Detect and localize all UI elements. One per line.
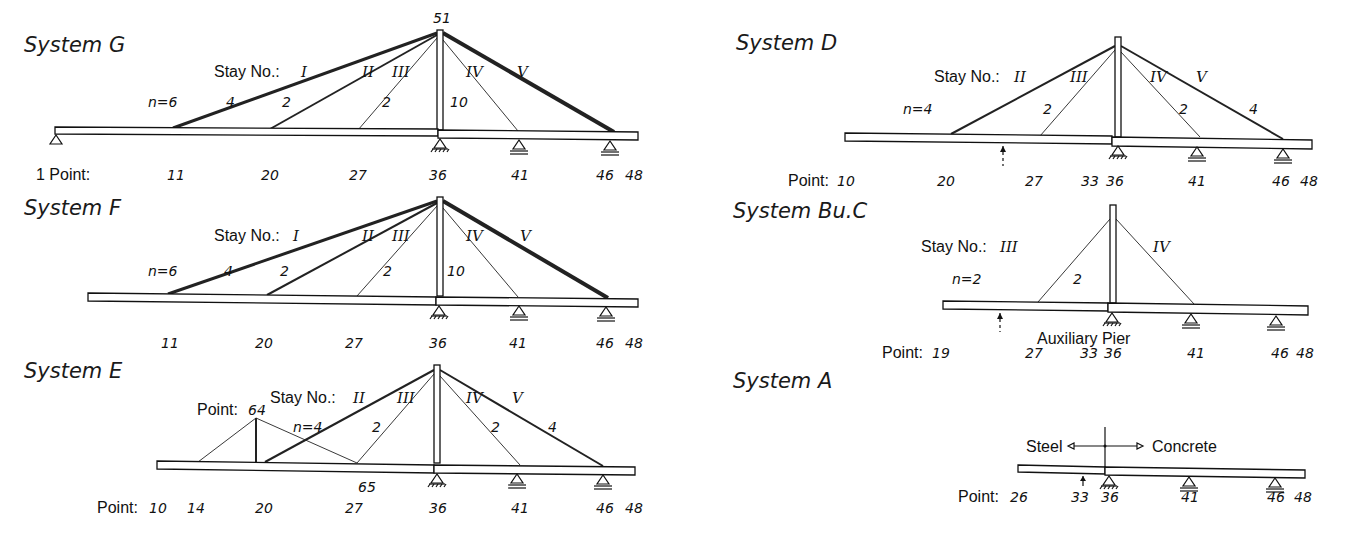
stay-strand-count: 4 bbox=[224, 263, 233, 279]
point-number: 33 bbox=[1071, 489, 1089, 505]
stay-iii bbox=[357, 374, 434, 463]
system-e-title: System E bbox=[24, 359, 123, 383]
support-roller-icon bbox=[601, 141, 619, 155]
stay-iv bbox=[1116, 219, 1194, 304]
stay-no-label: Stay No.: bbox=[270, 389, 336, 406]
point-number: 11 bbox=[167, 167, 185, 183]
support-roller-icon bbox=[510, 140, 528, 154]
stay-strand-count: n=4 bbox=[293, 419, 323, 435]
point-number: 27 bbox=[1025, 173, 1043, 189]
point-number: 48 bbox=[1296, 345, 1314, 361]
stay-strand-count: 2 bbox=[1179, 101, 1188, 117]
system-d: System D Stay No.: II III IV V n=4 2 2 4… bbox=[736, 31, 1318, 189]
point-number: 33 bbox=[1081, 173, 1099, 189]
steel-label: Steel bbox=[1026, 438, 1062, 455]
stay-id: II bbox=[1013, 68, 1027, 86]
point-number: 41 bbox=[1188, 173, 1206, 189]
support-roller-icon bbox=[1182, 314, 1200, 328]
support-fixed-icon bbox=[1109, 146, 1127, 159]
stay-ii bbox=[951, 46, 1115, 134]
pylon-top-point: 51 bbox=[433, 10, 451, 26]
stay-iii bbox=[1038, 219, 1110, 302]
point-number: 41 bbox=[511, 500, 529, 516]
stay-id: III bbox=[396, 389, 416, 407]
stay-strand-count: 10 bbox=[450, 94, 468, 110]
point-number: 41 bbox=[1181, 489, 1199, 505]
deck-concrete bbox=[434, 465, 635, 475]
arrow-up-icon bbox=[1080, 476, 1086, 481]
mid-point-number: 65 bbox=[358, 479, 376, 495]
support-roller-icon bbox=[510, 306, 528, 320]
deck-steel bbox=[157, 461, 434, 473]
stay-no-label: Stay No.: bbox=[934, 68, 1000, 85]
stay-id: II bbox=[361, 227, 375, 245]
stay-strand-count: 4 bbox=[226, 94, 235, 110]
stay-v bbox=[443, 33, 614, 132]
stay-iii bbox=[1040, 50, 1115, 136]
system-g-title: System G bbox=[24, 33, 125, 57]
aux-stay bbox=[198, 418, 256, 462]
stay-id: II bbox=[352, 389, 366, 407]
point-number: 46 bbox=[1272, 173, 1290, 189]
support-fixed-icon bbox=[1100, 476, 1118, 489]
stay-no-label: Stay No.: bbox=[921, 238, 987, 255]
point-number: 36 bbox=[1101, 489, 1119, 505]
stay-strand-count: 2 bbox=[372, 419, 381, 435]
stay-id: V bbox=[1196, 68, 1209, 86]
system-d-title: System D bbox=[736, 31, 837, 55]
deck-steel bbox=[55, 127, 438, 136]
arrow-up-icon bbox=[997, 313, 1003, 319]
point-number: 46 bbox=[1267, 489, 1285, 505]
point-number: 11 bbox=[161, 335, 179, 351]
point-number: 14 bbox=[187, 500, 205, 516]
point-number: 46 bbox=[1271, 345, 1289, 361]
stay-id: III bbox=[391, 227, 411, 245]
stay-id: IV bbox=[465, 63, 485, 81]
stay-id: III bbox=[999, 238, 1019, 256]
stay-id: I bbox=[292, 227, 300, 245]
point-number: 27 bbox=[345, 335, 363, 351]
stay-id: IV bbox=[1149, 68, 1169, 86]
stay-id: V bbox=[517, 63, 530, 81]
point-number: 27 bbox=[349, 167, 367, 183]
point-number: 36 bbox=[1104, 345, 1122, 361]
stay-strand-count: 2 bbox=[282, 94, 291, 110]
point-number: 33 bbox=[1080, 345, 1098, 361]
system-a: System A Steel Concrete Point: 26 33 36 … bbox=[733, 369, 1312, 505]
point-number: 26 bbox=[1010, 489, 1028, 505]
point-number: 27 bbox=[345, 500, 363, 516]
system-f-title: System F bbox=[24, 196, 122, 220]
pylon bbox=[1110, 205, 1116, 303]
stay-ii bbox=[265, 370, 434, 462]
system-buc-title: System Bu.C bbox=[733, 199, 867, 223]
stay-id: I bbox=[300, 63, 308, 81]
stay-v bbox=[1121, 46, 1283, 139]
system-e: System E Point: 64 Stay No.: II III IV V… bbox=[24, 359, 643, 516]
point-number: 36 bbox=[429, 335, 447, 351]
arrow-left-icon bbox=[1068, 443, 1074, 449]
point-number: 20 bbox=[937, 173, 955, 189]
support-fixed-icon bbox=[431, 139, 449, 152]
point-number: 48 bbox=[625, 335, 643, 351]
point-number: 20 bbox=[255, 500, 273, 516]
support-fixed-icon bbox=[1103, 313, 1121, 326]
support-roller-icon bbox=[1267, 316, 1285, 330]
stay-iv bbox=[1121, 52, 1200, 137]
arrow-right-icon bbox=[1137, 443, 1143, 449]
point-number: 10 bbox=[149, 500, 167, 516]
stay-ii bbox=[270, 35, 437, 129]
point-number: 48 bbox=[1300, 173, 1318, 189]
stay-strand-count: n=6 bbox=[148, 263, 178, 279]
stay-strand-count: n=4 bbox=[903, 101, 933, 117]
support-roller-icon bbox=[1188, 147, 1206, 161]
aux-point-label: Point: bbox=[197, 401, 238, 418]
divider-point bbox=[1104, 445, 1107, 448]
stay-no-label: Stay No.: bbox=[214, 227, 280, 244]
point-number: 41 bbox=[511, 167, 529, 183]
point-number: 19 bbox=[932, 345, 950, 361]
support-fixed-icon bbox=[428, 474, 446, 487]
deck-steel bbox=[1018, 465, 1105, 474]
cable-stayed-bridge-systems-diagram: System G 51 Stay No.: I II III IV V n=6 … bbox=[0, 0, 1370, 550]
deck-concrete bbox=[436, 297, 638, 307]
pylon bbox=[437, 197, 443, 296]
